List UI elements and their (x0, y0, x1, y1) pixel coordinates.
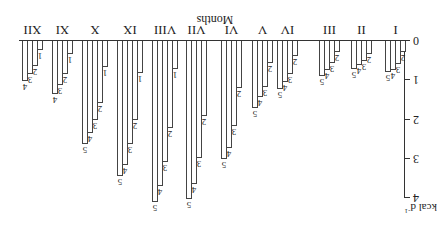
bar-label: 5 (151, 203, 159, 212)
y-tick (405, 79, 410, 80)
bar-label: 5 (185, 200, 193, 209)
bar-II-5 (351, 41, 357, 69)
bar-VII-5 (186, 41, 192, 199)
bar-label: 5 (220, 160, 228, 169)
month-label-II: II (345, 22, 378, 38)
y-tick-label: 3 (413, 151, 429, 166)
month-label-III: III (313, 22, 346, 38)
bar-label: 5 (81, 145, 89, 154)
y-axis-title-text: kcal d (410, 202, 437, 214)
bar-XII-4 (22, 41, 28, 81)
y-tick-label: 1 (413, 72, 429, 87)
bar-label: 4 (51, 95, 59, 104)
bar-IV-5 (277, 41, 283, 89)
y-tick (405, 119, 410, 120)
rotated-chart: 01234kcal d-12345I2345II2345III2345IV234… (0, 0, 445, 229)
y-tick-label: 2 (413, 112, 429, 127)
bar-VIII-5 (152, 41, 158, 202)
bar-XI-4 (52, 41, 58, 94)
bar-IX-5 (117, 41, 123, 176)
bar-label: 5 (116, 177, 124, 186)
x-axis-line (19, 40, 405, 41)
bar-label: 5 (384, 73, 392, 82)
y-tick-label: 0 (413, 33, 429, 48)
bar-X-5 (82, 41, 88, 144)
y-tick (405, 158, 410, 159)
bar-III-5 (319, 41, 325, 76)
month-label-IX: IX (111, 22, 149, 38)
y-axis-title: kcal d-1 (405, 202, 437, 215)
month-label-I: I (379, 22, 412, 38)
bar-label: 5 (276, 90, 284, 99)
month-label-X: X (76, 22, 114, 38)
y-tick (405, 197, 410, 198)
bar-label: 5 (350, 70, 358, 79)
bar-label: 4 (21, 82, 29, 91)
y-axis-title-sup: -1 (405, 207, 411, 215)
bar-label: 5 (318, 77, 326, 86)
x-axis-title: Months (165, 12, 265, 27)
bar-V-5 (252, 41, 258, 108)
month-label-XII: XII (16, 22, 49, 38)
bar-I-5 (385, 41, 391, 72)
month-label-XI: XI (46, 22, 79, 38)
bar-VI-5 (221, 41, 227, 159)
bar-label: 5 (251, 109, 259, 118)
